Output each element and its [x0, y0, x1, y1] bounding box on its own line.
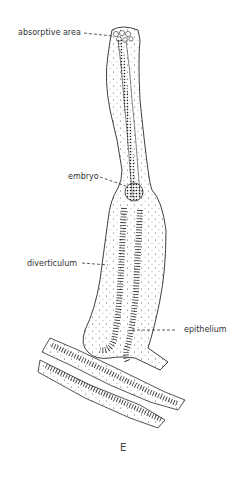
embryo: [125, 183, 143, 201]
panel-label: E: [120, 442, 126, 453]
diagram-figure: [0, 0, 236, 477]
label-diverticulum: diverticulum: [27, 259, 77, 269]
label-epithelium: epithelium: [184, 325, 227, 335]
label-absorptive-area: absorptive area: [18, 28, 81, 38]
label-embryo: embryo: [68, 172, 99, 182]
